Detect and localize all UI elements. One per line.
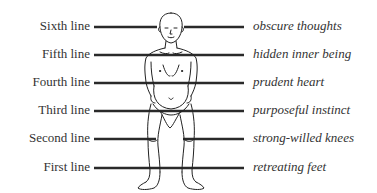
right-label-sixth: obscure thoughts: [253, 18, 342, 34]
left-label-second: Second line: [0, 130, 90, 146]
diagram: Sixth line Fifth line Fourth line Third …: [0, 0, 377, 193]
right-label-first: retreating feet: [253, 159, 326, 175]
right-label-fourth: prudent heart: [253, 74, 324, 90]
left-label-fourth: Fourth line: [0, 74, 90, 90]
right-label-third: purposeful instinct: [253, 102, 350, 118]
left-label-sixth: Sixth line: [0, 18, 90, 34]
left-label-third: Third line: [0, 102, 90, 118]
right-label-second: strong-willed knees: [253, 130, 354, 146]
left-label-first: First line: [0, 159, 90, 175]
left-label-fifth: Fifth line: [0, 46, 90, 62]
human-figure-icon: [138, 13, 204, 190]
right-label-fifth: hidden inner being: [253, 46, 351, 62]
